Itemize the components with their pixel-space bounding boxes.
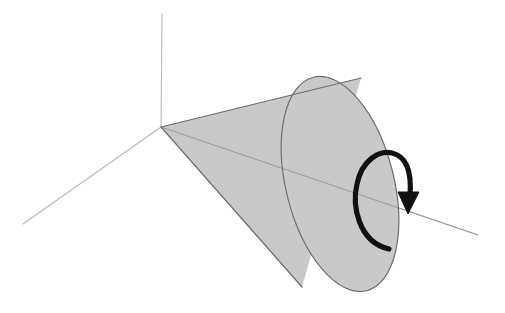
cone-rotation-figure — [0, 0, 505, 313]
figure-canvas — [0, 0, 505, 313]
